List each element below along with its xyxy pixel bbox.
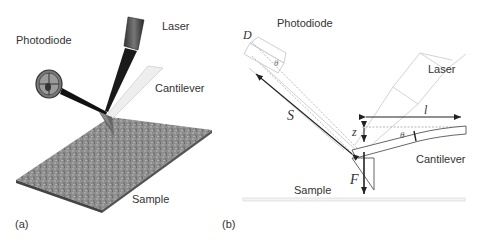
- symbol-S: S: [287, 108, 294, 124]
- photodiode-icon-a: [36, 70, 62, 98]
- sample-label-b: Sample: [294, 184, 331, 196]
- distance-S-arrow: [256, 74, 352, 154]
- afm-diagram-graphics: [0, 0, 479, 244]
- reflected-beam-a: [60, 88, 107, 115]
- panel-b-label: (b): [222, 218, 235, 230]
- panel-a-label: (a): [15, 218, 28, 230]
- symbol-D: D: [243, 28, 252, 43]
- laser-label-a: Laser: [162, 20, 190, 32]
- laser-label-b: Laser: [428, 63, 456, 75]
- photodiode-label-a: Photodiode: [16, 34, 72, 46]
- symbol-theta-top: θ: [274, 58, 278, 68]
- symbol-l: l: [424, 103, 427, 118]
- sample-slab-a: [16, 117, 212, 213]
- sample-surface-b: [243, 198, 465, 201]
- cantilever-label-b: Cantilever: [416, 153, 466, 165]
- symbol-z: z: [352, 125, 357, 140]
- symbol-theta-cantilever: θ: [400, 130, 404, 140]
- photodiode-label-b: Photodiode: [277, 17, 333, 29]
- beam-path-b: [249, 42, 358, 150]
- cantilever-label-a: Cantilever: [155, 82, 205, 94]
- symbol-F: F: [350, 172, 359, 188]
- sample-label-a: Sample: [132, 193, 169, 205]
